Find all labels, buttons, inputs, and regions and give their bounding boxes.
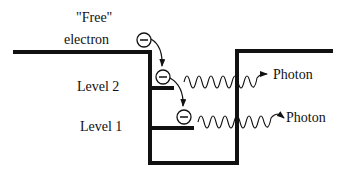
free-electron-label-line1: "Free" xyxy=(76,11,112,25)
transition-arrow-level2-to-level1 xyxy=(170,78,183,106)
electron-level2-icon xyxy=(156,70,170,84)
electron-level1-icon xyxy=(177,110,191,124)
energy-well-diagram xyxy=(0,0,345,173)
level-2-label: Level 2 xyxy=(77,80,119,94)
photon-wave-upper xyxy=(184,74,267,88)
free-electron-icon xyxy=(137,33,151,47)
photon-wave-lower xyxy=(198,114,284,128)
transition-arrow-free-to-level2 xyxy=(151,39,162,66)
free-electron-label-line2: electron xyxy=(64,33,109,47)
level-1-label: Level 1 xyxy=(80,120,122,134)
photon-label-upper: Photon xyxy=(273,68,313,82)
photon-label-lower: Photon xyxy=(286,111,326,125)
